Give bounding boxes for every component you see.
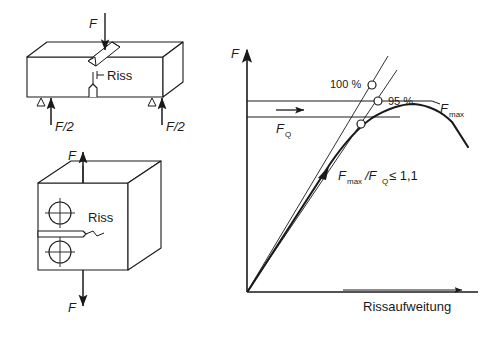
chart-label-fq: F Q	[276, 121, 291, 139]
ct-notch-slot	[38, 231, 86, 237]
chart-marker-100-percent	[368, 81, 376, 89]
beam-load-label: F	[89, 16, 98, 31]
chart-marker-fq	[357, 120, 365, 128]
chart-label-fmax: F max	[440, 101, 464, 119]
chart-label-95-percent: 95 %	[388, 95, 413, 107]
ratio-fmax-sub: max	[347, 177, 362, 186]
ratio-value: ≤ 1,1	[389, 168, 418, 183]
chart-y-axis-label: F	[231, 46, 240, 61]
chart-fmax-leader	[432, 101, 440, 104]
chart-x-axis-label: Rissaufweitung	[363, 299, 451, 314]
chart-marker-95-percent	[374, 97, 382, 105]
chart-label-fmax-sub: max	[449, 110, 464, 119]
support-right-triangle	[148, 98, 156, 106]
chart-group	[247, 50, 478, 292]
reaction-right-label: F/2	[166, 119, 186, 134]
chart-curve-direction-arrow	[318, 166, 329, 180]
ct-load-bottom-label: F	[68, 300, 77, 315]
chart-label-ratio-criterion: F max /F Q ≤ 1,1	[338, 168, 418, 186]
chart-label-fmax-main: F	[440, 101, 449, 116]
chart-label-fq-main: F	[276, 121, 285, 136]
figure-root: F Riss F/2 F/2 F F Riss F 100 % 95 % F m…	[0, 0, 495, 341]
figure-svg: F Riss F/2 F/2 F F Riss F 100 % 95 % F m…	[0, 0, 495, 341]
ct-load-top-label: F	[68, 148, 77, 163]
support-left-triangle	[37, 98, 45, 106]
beam-crack-label: Riss	[107, 68, 133, 83]
chart-label-100-percent: 100 %	[330, 78, 361, 90]
support-right-group	[148, 98, 156, 106]
ratio-fq: /F	[364, 168, 378, 183]
reaction-left-label: F/2	[55, 119, 75, 134]
ratio-fmax: F	[338, 168, 347, 183]
ratio-fq-sub: Q	[382, 177, 388, 186]
ct-notch-group	[38, 231, 86, 237]
ct-crack-label: Riss	[88, 210, 114, 225]
chart-label-fq-sub: Q	[285, 130, 291, 139]
support-left-group	[37, 98, 45, 106]
